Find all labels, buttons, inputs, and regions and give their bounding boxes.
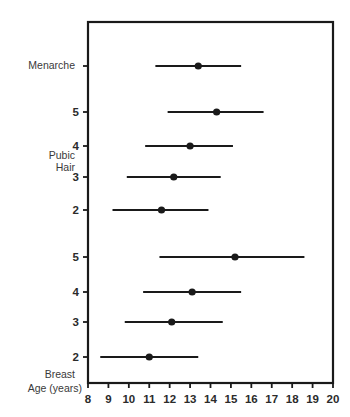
x-tick-label-9: 9 bbox=[105, 393, 111, 405]
chart-container: 54325432 MenarchePubicHairBreastAge (yea… bbox=[0, 0, 350, 417]
group-label-breast: Breast bbox=[45, 368, 75, 380]
mean-marker-ph2 bbox=[158, 206, 165, 213]
mean-marker-ph5 bbox=[213, 108, 220, 115]
data-series-group bbox=[100, 62, 304, 360]
x-tick-label-12: 12 bbox=[163, 393, 176, 405]
x-tick-label-17: 17 bbox=[265, 393, 278, 405]
data-row-ph3 bbox=[127, 173, 221, 180]
mean-marker-br4 bbox=[189, 288, 196, 295]
plot-frame-group bbox=[88, 22, 333, 383]
data-row-br3 bbox=[125, 318, 223, 325]
x-tick-label-10: 10 bbox=[122, 393, 135, 405]
y-stage-label-br3: 3 bbox=[73, 316, 79, 328]
plot-frame bbox=[88, 22, 333, 383]
y-stage-label-ph5: 5 bbox=[73, 106, 80, 118]
x-tick-label-18: 18 bbox=[286, 393, 299, 405]
x-tick-label-19: 19 bbox=[306, 393, 319, 405]
data-row-menarche bbox=[155, 62, 241, 69]
group-label-pubic: Pubic bbox=[49, 149, 75, 161]
data-row-br5 bbox=[159, 253, 304, 260]
mean-marker-menarche bbox=[195, 62, 202, 69]
tanner-stage-chart: 54325432 MenarchePubicHairBreastAge (yea… bbox=[0, 0, 350, 417]
data-row-ph5 bbox=[168, 108, 264, 115]
x-axis-tick-labels: 891011121314151617181920 bbox=[85, 393, 340, 405]
x-tick-label-14: 14 bbox=[204, 393, 217, 405]
x-tick-label-13: 13 bbox=[184, 393, 197, 405]
x-tick-label-16: 16 bbox=[245, 393, 258, 405]
x-tick-label-15: 15 bbox=[225, 393, 238, 405]
y-axis-stage-labels: 54325432 bbox=[73, 106, 80, 363]
mean-marker-ph3 bbox=[170, 173, 177, 180]
data-row-ph2 bbox=[113, 206, 209, 213]
mean-marker-br5 bbox=[231, 253, 238, 260]
x-axis-title: Age (years) bbox=[28, 382, 82, 394]
mean-marker-br3 bbox=[168, 318, 175, 325]
y-stage-label-br4: 4 bbox=[73, 286, 80, 298]
x-tick-label-8: 8 bbox=[85, 393, 92, 405]
x-tick-label-11: 11 bbox=[143, 393, 156, 405]
y-stage-label-br5: 5 bbox=[73, 251, 80, 263]
x-tick-label-20: 20 bbox=[327, 393, 340, 405]
y-stage-label-br2: 2 bbox=[73, 351, 79, 363]
mean-marker-br2 bbox=[146, 353, 153, 360]
y-stage-label-ph2: 2 bbox=[73, 204, 79, 216]
data-row-ph4 bbox=[145, 142, 233, 149]
data-row-br4 bbox=[143, 288, 241, 295]
group-label-menarche: Menarche bbox=[28, 59, 75, 71]
mean-marker-ph4 bbox=[186, 142, 193, 149]
group-label-hair: Hair bbox=[56, 161, 76, 173]
data-row-br2 bbox=[100, 353, 198, 360]
